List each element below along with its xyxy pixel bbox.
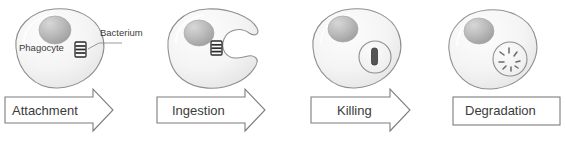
panel-attachment: Phagocyte Bacterium Attachment xyxy=(5,9,143,131)
bacterium-glyph-3 xyxy=(372,48,378,65)
nucleus-1 xyxy=(39,16,71,44)
stage-arrow-ingestion: Ingestion xyxy=(157,89,265,131)
stage-label-ingestion: Ingestion xyxy=(172,103,225,118)
stage-label-killing: Killing xyxy=(337,103,372,118)
panel-killing: Killing xyxy=(311,9,410,131)
bacterium-label: Bacterium xyxy=(100,27,143,38)
panel-ingestion: Ingestion xyxy=(157,9,265,131)
nucleus-2 xyxy=(184,20,214,46)
phagocytosis-diagram: Phagocyte Bacterium Attachment xyxy=(0,0,566,147)
stage-arrow-attachment: Attachment xyxy=(5,89,113,131)
panel-degradation: Degradation xyxy=(449,10,560,125)
stage-arrow-killing: Killing xyxy=(311,89,410,131)
nucleus-4 xyxy=(464,18,494,44)
bacterium-glyph-1 xyxy=(75,42,86,57)
nucleus-3 xyxy=(328,16,358,42)
stage-label-attachment: Attachment xyxy=(12,103,78,118)
diagram-canvas: Phagocyte Bacterium Attachment xyxy=(0,0,566,147)
stage-label-degradation: Degradation xyxy=(465,103,536,118)
phagosome-vesicle xyxy=(359,41,391,73)
phagocyte-label: Phagocyte xyxy=(19,42,64,53)
stage-box-degradation: Degradation xyxy=(453,97,560,125)
bacterium-glyph-2 xyxy=(211,41,222,55)
phagolysosome-vesicle xyxy=(493,42,527,76)
